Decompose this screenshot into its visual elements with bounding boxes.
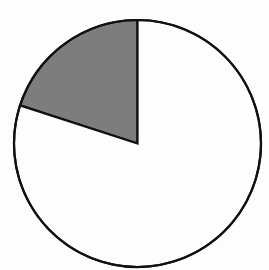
- pie-slices: [14, 20, 261, 267]
- pie-chart: [0, 0, 269, 270]
